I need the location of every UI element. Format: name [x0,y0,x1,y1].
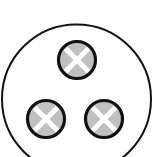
diagram-canvas [0,0,156,157]
three-marked-circles-diagram [0,0,156,157]
node-bottom-right [86,101,123,138]
node-bottom-left [28,101,65,138]
node-top [59,42,96,79]
